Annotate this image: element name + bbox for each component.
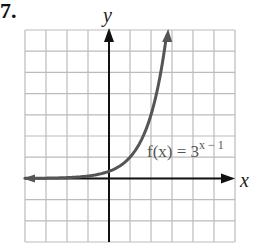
y-axis-label: y xyxy=(101,4,112,27)
function-label-exponent: x − 1 xyxy=(199,138,224,152)
x-axis-label: x xyxy=(239,169,249,191)
curve-arrow-icon xyxy=(162,29,172,42)
function-graph: x y f(x) = 3x − 1 xyxy=(0,0,267,252)
function-label-base: f(x) = 3 xyxy=(147,142,199,161)
grid-lines xyxy=(25,30,235,242)
